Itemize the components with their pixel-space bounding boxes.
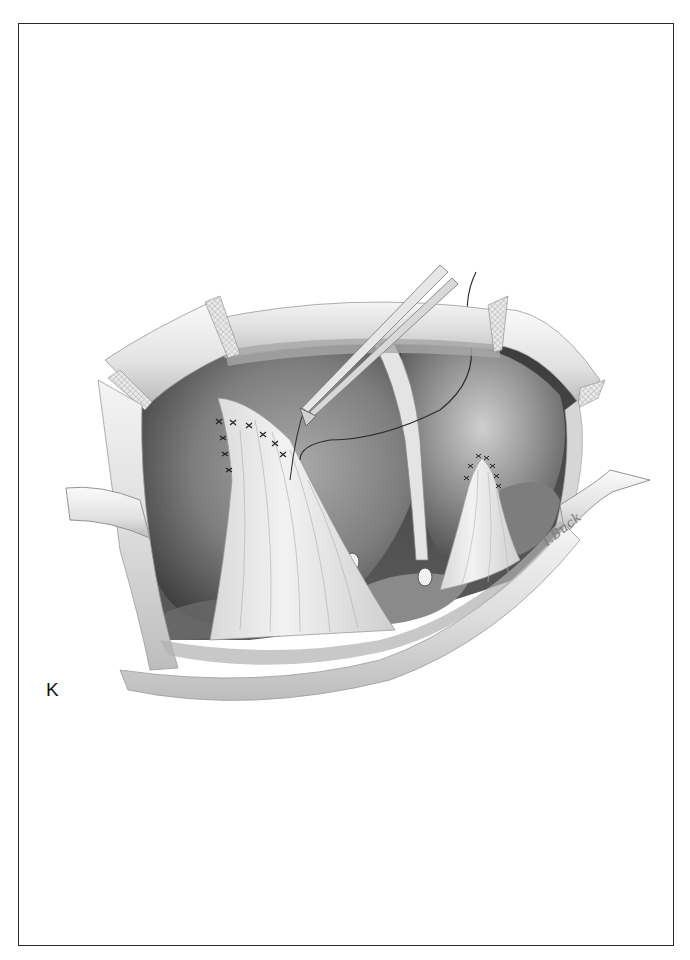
ligature-tie — [418, 568, 432, 586]
panel-label: K — [46, 680, 59, 699]
surgical-illustration — [0, 0, 690, 960]
